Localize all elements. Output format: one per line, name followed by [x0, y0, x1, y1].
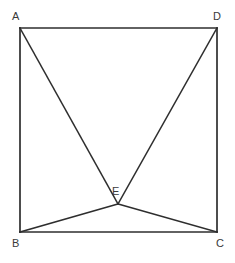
vertex-label-e: E [112, 186, 119, 197]
vertex-label-a: A [12, 11, 19, 22]
segment-ce [118, 204, 217, 232]
segments-group [20, 28, 217, 232]
geometry-figure: ADBCE [0, 0, 235, 263]
vertex-label-c: C [216, 238, 224, 249]
vertex-label-d: D [213, 11, 221, 22]
figure-canvas [0, 0, 235, 263]
vertex-label-b: B [12, 238, 19, 249]
segment-de [118, 28, 217, 204]
segment-be [20, 204, 118, 232]
segment-ae [20, 28, 118, 204]
